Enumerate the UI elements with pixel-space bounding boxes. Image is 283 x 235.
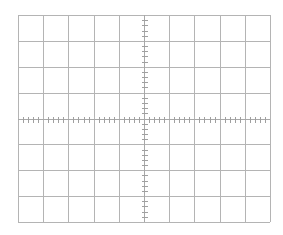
- oscilloscope-graticule: [0, 0, 283, 235]
